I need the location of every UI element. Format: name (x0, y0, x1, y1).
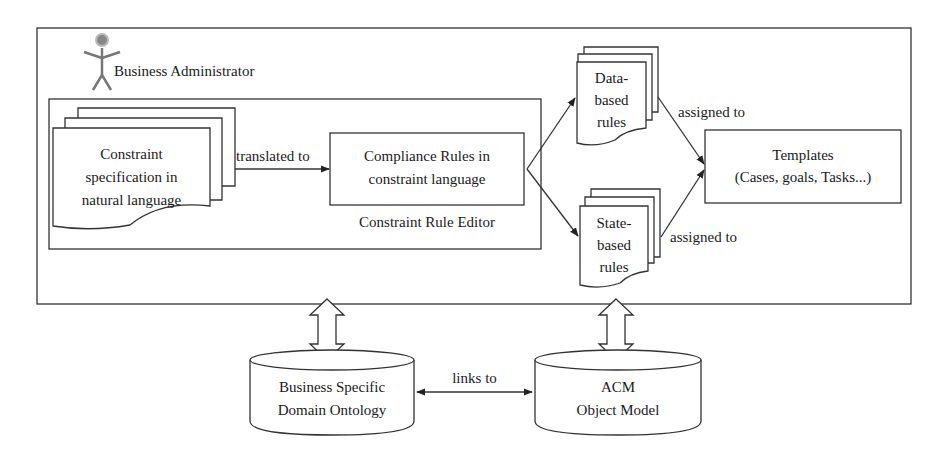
translated-to-label: translated to (236, 147, 310, 166)
constraint-spec-line3: natural language (53, 191, 210, 210)
templates-box (705, 130, 901, 203)
ontology-line2: Domain Ontology (250, 401, 414, 420)
links-to-label: links to (417, 369, 532, 388)
compliance-rules-box (330, 133, 524, 205)
ontology-line1: Business Specific (250, 378, 414, 397)
compliance-rules-line2: constraint language (330, 170, 524, 189)
state-rules-line2: based (580, 236, 648, 255)
data-rules-line1: Data- (577, 69, 646, 88)
acm-line1: ACM (535, 378, 701, 397)
editor-label: Constraint Rule Editor (330, 213, 524, 232)
constraint-spec-line1: Constraint (53, 145, 210, 164)
state-rules-line1: State- (580, 214, 648, 233)
compliance-rules-line1: Compliance Rules in (330, 147, 524, 166)
assigned-to-top-label: assigned to (678, 103, 745, 122)
acm-line2: Object Model (535, 401, 701, 420)
actor-label: Business Administrator (114, 62, 254, 81)
assigned-to-bottom-label: assigned to (670, 228, 737, 247)
state-rules-line3: rules (580, 258, 648, 277)
templates-line2: (Cases, goals, Tasks...) (705, 168, 901, 187)
constraint-spec-line2: specification in (53, 168, 210, 187)
data-rules-line3: rules (577, 113, 646, 132)
templates-line1: Templates (705, 146, 901, 165)
data-rules-line2: based (577, 91, 646, 110)
